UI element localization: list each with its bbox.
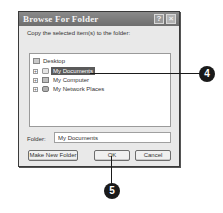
- callout-5-leader-line: [111, 156, 112, 184]
- desktop-icon: [33, 58, 40, 64]
- expand-icon[interactable]: +: [33, 69, 38, 74]
- callout-4-badge: 4: [199, 66, 215, 82]
- callout-5-badge: 5: [104, 183, 120, 199]
- browse-for-folder-dialog: Browse For Folder ? × Copy the selected …: [18, 11, 180, 167]
- expand-icon[interactable]: +: [33, 78, 38, 83]
- dialog-title: Browse For Folder: [23, 14, 99, 24]
- tree-node-label: My Network Places: [53, 85, 104, 93]
- tree-node-label: My Documents: [51, 67, 95, 75]
- dialog-prompt: Copy the selected item(s) to the folder:: [27, 30, 130, 36]
- callout-4-leader-line: [90, 73, 202, 74]
- tree-node-label: My Computer: [53, 76, 89, 84]
- folder-input[interactable]: [54, 132, 171, 143]
- expand-icon[interactable]: +: [33, 87, 38, 92]
- folder-tree-view[interactable]: Desktop + My Documents + My Computer + M…: [29, 53, 171, 127]
- folder-label: Folder:: [27, 136, 46, 142]
- title-bar[interactable]: Browse For Folder ? ×: [19, 12, 179, 26]
- make-new-folder-button[interactable]: Make New Folder: [28, 150, 78, 161]
- folder-icon: [42, 68, 49, 74]
- cancel-button[interactable]: Cancel: [135, 150, 171, 161]
- ok-button[interactable]: OK: [94, 150, 130, 161]
- computer-icon: [42, 77, 49, 83]
- help-button[interactable]: ?: [154, 14, 164, 24]
- close-button[interactable]: ×: [166, 14, 176, 24]
- tree-node-label: Desktop: [43, 57, 65, 65]
- network-icon: [42, 86, 49, 92]
